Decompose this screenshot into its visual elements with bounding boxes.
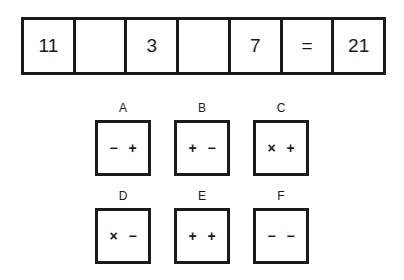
minus-icon: − xyxy=(267,229,275,243)
option-box[interactable]: × + xyxy=(253,120,309,176)
equation-cell-number: 3 xyxy=(127,20,179,72)
minus-icon: − xyxy=(286,229,294,243)
option-box[interactable]: + + xyxy=(174,208,230,264)
option-box[interactable]: − − xyxy=(253,208,309,264)
plus-icon: + xyxy=(286,141,294,155)
minus-icon: − xyxy=(128,229,136,243)
plus-icon: + xyxy=(188,229,196,243)
option-box[interactable]: − + xyxy=(95,120,151,176)
equation-cell-equals: = xyxy=(283,20,335,72)
option-f[interactable]: F − − xyxy=(253,189,309,264)
option-d[interactable]: D × − xyxy=(95,189,151,264)
equation-cell-number: 11 xyxy=(24,20,76,72)
option-label: E xyxy=(174,189,230,203)
equation-cell-blank-operator[interactable] xyxy=(179,20,231,72)
plus-icon: + xyxy=(128,141,136,155)
equation-cell-blank-operator[interactable] xyxy=(76,20,128,72)
option-label: F xyxy=(253,189,309,203)
option-c[interactable]: C × + xyxy=(253,101,309,176)
multiply-icon: × xyxy=(109,229,117,243)
option-box[interactable]: + − xyxy=(174,120,230,176)
minus-icon: − xyxy=(207,141,215,155)
equation-cell-number: 7 xyxy=(231,20,283,72)
minus-icon: − xyxy=(109,141,117,155)
option-b[interactable]: B + − xyxy=(174,101,230,176)
option-box[interactable]: × − xyxy=(95,208,151,264)
multiply-icon: × xyxy=(267,141,275,155)
plus-icon: + xyxy=(188,141,196,155)
option-a[interactable]: A − + xyxy=(95,101,151,176)
option-label: A xyxy=(95,101,151,115)
option-label: B xyxy=(174,101,230,115)
equation-row: 11 3 7 = 21 xyxy=(21,17,386,75)
plus-icon: + xyxy=(207,229,215,243)
equation-cell-result: 21 xyxy=(334,20,383,72)
option-label: D xyxy=(95,189,151,203)
option-e[interactable]: E + + xyxy=(174,189,230,264)
option-label: C xyxy=(253,101,309,115)
